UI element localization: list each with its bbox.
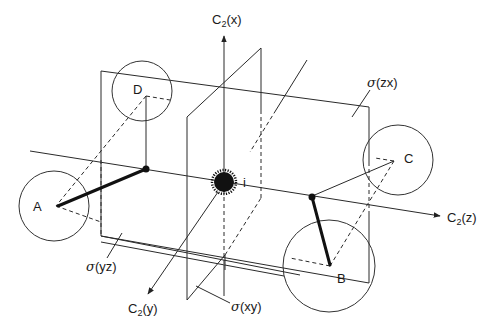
sigma-zx-label: σ(zx) xyxy=(367,75,398,90)
atom-C-label: C xyxy=(404,151,413,166)
atom-D-label: D xyxy=(133,82,142,97)
bond-node-left xyxy=(143,166,150,173)
symmetry-diagram: C2(x) C2(z) C2(y) σ(zx) σ(yz) σ(xy) i D … xyxy=(0,0,482,331)
atom-B-label: B xyxy=(337,271,346,286)
plane-line xyxy=(146,90,400,140)
inversion-center-icon xyxy=(212,170,236,194)
inversion-label: i xyxy=(243,175,246,190)
c2y-label: C2(y) xyxy=(128,301,158,318)
c2y-axis xyxy=(148,192,218,294)
plane-zx xyxy=(101,71,369,283)
bond-node-right xyxy=(309,194,316,201)
c2z-label: C2(z) xyxy=(447,210,477,227)
c2y-axis-upper xyxy=(276,60,307,110)
sigma-yz-label: σ(yz) xyxy=(86,259,117,274)
atom-A xyxy=(19,171,89,241)
bond-A xyxy=(58,169,146,206)
sigma-xy-label: σ(xy) xyxy=(231,299,262,314)
atom-C xyxy=(363,125,433,195)
c2x-label: C2(x) xyxy=(212,12,242,29)
atom-A-label: A xyxy=(33,199,42,214)
bond-B xyxy=(312,197,330,265)
c2z-axis xyxy=(30,151,440,216)
